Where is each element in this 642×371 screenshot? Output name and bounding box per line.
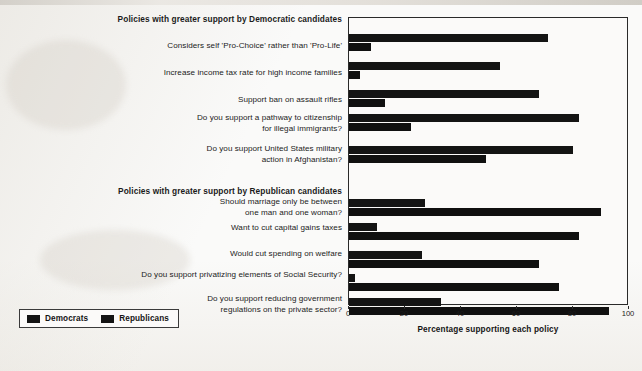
bars-layer [349,18,627,304]
legend-label-republicans: Republicans [119,314,169,323]
bar-democrats[interactable] [349,298,441,306]
x-tick-label: 40 [456,309,464,318]
category-label: Should marriage only be betweenone man a… [60,197,342,218]
x-axis-title: Percentage supporting each policy [348,325,628,334]
category-label-line: Would cut spending on welfare [60,249,342,260]
chart-legend: Democrats Republicans [19,309,179,328]
category-label: Do you support United States militaryact… [60,144,342,165]
bar-democrats[interactable] [349,251,422,259]
category-label-line: Should marriage only be between [60,197,342,208]
legend-item-democrats[interactable]: Democrats [27,314,88,323]
category-label-line: Support ban on assault rifles [60,95,342,106]
x-axis-ticks: 020406080100 [348,306,628,322]
category-label-line: one man and one woman? [60,208,342,219]
bar-democrats[interactable] [349,146,573,154]
bar-democrats[interactable] [349,114,579,122]
category-label: Do you support a pathway to citizenshipf… [60,113,342,134]
x-tick-label: 20 [400,309,408,318]
x-tick-label: 0 [346,309,350,318]
category-label-line: Do you support a pathway to citizenship [60,113,342,124]
category-label-line: Do you support United States military [60,144,342,155]
category-label-line: Do you support reducing government [60,294,342,305]
bar-republicans[interactable] [349,43,371,51]
bar-democrats[interactable] [349,223,377,231]
bar-democrats[interactable] [349,274,355,282]
bar-republicans[interactable] [349,232,579,240]
x-tick-label: 60 [512,309,520,318]
category-label-line: Want to cut capital gains taxes [60,223,342,234]
bar-republicans[interactable] [349,99,385,107]
bar-republicans[interactable] [349,260,539,268]
category-label-line: Increase income tax rate for high income… [60,68,342,79]
category-label: Considers self 'Pro-Choice' rather than … [60,41,342,52]
category-label-line: for illegal immigrants? [60,124,342,135]
category-label: Support ban on assault rifles [60,95,342,106]
legend-label-democrats: Democrats [45,314,88,323]
category-label: Would cut spending on welfare [60,249,342,260]
bar-democrats[interactable] [349,62,500,70]
bar-democrats[interactable] [349,34,548,42]
legend-swatch-republicans [101,315,114,323]
bar-republicans[interactable] [349,71,360,79]
category-label-line: Do you support privatizing elements of S… [60,270,342,281]
bar-republicans[interactable] [349,208,601,216]
x-tick-label: 100 [622,309,635,318]
category-label: Do you support privatizing elements of S… [60,270,342,281]
legend-item-republicans[interactable]: Republicans [101,314,169,323]
bar-republicans[interactable] [349,283,559,291]
category-labels-column: Policies with greater support by Democra… [58,0,342,310]
category-label: Increase income tax rate for high income… [60,68,342,79]
bar-democrats[interactable] [349,90,539,98]
legend-swatch-democrats [27,315,40,323]
bar-republicans[interactable] [349,123,411,131]
bar-republicans[interactable] [349,155,486,163]
grouped-bar-chart: Policies with greater support by Democra… [0,0,642,371]
x-tick-label: 80 [568,309,576,318]
section-heading-dem: Policies with greater support by Democra… [60,14,342,25]
category-label: Want to cut capital gains taxes [60,223,342,234]
category-label-line: Considers self 'Pro-Choice' rather than … [60,41,342,52]
bar-democrats[interactable] [349,199,425,207]
section-heading-rep: Policies with greater support by Republi… [60,186,342,197]
category-label-line: action in Afghanistan? [60,155,342,166]
